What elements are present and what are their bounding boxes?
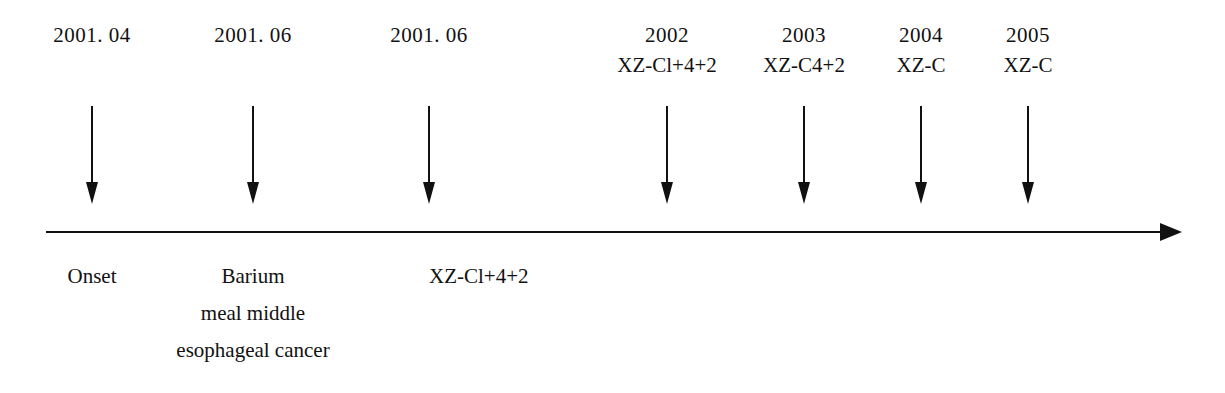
down-arrow-icon (86, 106, 98, 204)
timeline-marker-date: 2005 (918, 20, 1138, 50)
timeline-axis-arrowhead-icon (1160, 223, 1182, 241)
arrow-head (798, 182, 810, 204)
timeline-marker-code: XZ-C (918, 50, 1138, 80)
timeline-below-label-marker-2001-06-b: XZ-Cl+4+2 (429, 258, 689, 295)
arrow-shaft (803, 106, 805, 186)
arrow-head (247, 182, 259, 204)
down-arrow-icon (423, 106, 435, 204)
timeline-axis-line (46, 231, 1168, 233)
timeline-figure: 2001. 042001. 062001. 062002XZ-Cl+4+2200… (0, 0, 1225, 393)
timeline-below-label-line: Barium (123, 258, 383, 295)
arrow-head (86, 182, 98, 204)
down-arrow-icon (661, 106, 673, 204)
arrow-head (661, 182, 673, 204)
arrow-shaft (91, 106, 93, 186)
timeline-marker-date: 2001. 06 (319, 20, 539, 50)
arrow-shaft (428, 106, 430, 186)
down-arrow-icon (915, 106, 927, 204)
arrow-head (423, 182, 435, 204)
timeline-below-label-line: meal middle (123, 295, 383, 332)
timeline-below-label-line: esophageal cancer (123, 332, 383, 369)
arrow-head (915, 182, 927, 204)
arrow-shaft (920, 106, 922, 186)
timeline-marker-marker-2001-06-b: 2001. 06 (319, 20, 539, 50)
arrow-shaft (252, 106, 254, 186)
timeline-below-label-marker-2001-06-a: Bariummeal middleesophageal cancer (123, 258, 383, 369)
timeline-axis (46, 231, 1180, 234)
timeline-marker-marker-2005: 2005XZ-C (918, 20, 1138, 80)
arrow-shaft (1027, 106, 1029, 186)
down-arrow-icon (798, 106, 810, 204)
down-arrow-icon (1022, 106, 1034, 204)
timeline-below-label-line: XZ-Cl+4+2 (429, 258, 689, 295)
arrow-shaft (666, 106, 668, 186)
arrow-head (1022, 182, 1034, 204)
down-arrow-icon (247, 106, 259, 204)
